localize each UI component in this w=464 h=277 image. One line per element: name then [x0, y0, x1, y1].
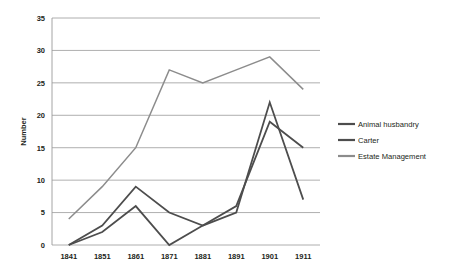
series-line-1 — [69, 122, 304, 245]
legend-label-2: Estate Management — [358, 152, 427, 161]
y-tick-label: 5 — [41, 208, 45, 217]
x-tick-label: 1861 — [127, 252, 144, 261]
y-tick-label: 30 — [37, 46, 45, 55]
legend-label-0: Animal husbandry — [358, 120, 419, 129]
chart-figure: 0510152025303518411851186118711881189119… — [0, 0, 464, 277]
y-axis-title: Number — [19, 117, 28, 145]
y-tick-label: 10 — [37, 176, 45, 185]
x-tick-label: 1871 — [161, 252, 178, 261]
y-tick-label: 15 — [37, 144, 45, 153]
line-chart: 0510152025303518411851186118711881189119… — [0, 0, 464, 277]
x-tick-label: 1901 — [261, 252, 278, 261]
x-tick-label: 1891 — [228, 252, 245, 261]
x-tick-label: 1841 — [60, 252, 77, 261]
x-tick-label: 1881 — [194, 252, 211, 261]
y-tick-label: 25 — [37, 79, 45, 88]
x-tick-label: 1911 — [295, 252, 311, 261]
y-tick-label: 35 — [37, 14, 45, 23]
series-line-2 — [69, 57, 304, 219]
y-tick-label: 20 — [37, 111, 45, 120]
y-tick-label: 0 — [41, 241, 45, 250]
x-tick-label: 1851 — [94, 252, 111, 261]
legend-label-1: Carter — [358, 136, 380, 145]
